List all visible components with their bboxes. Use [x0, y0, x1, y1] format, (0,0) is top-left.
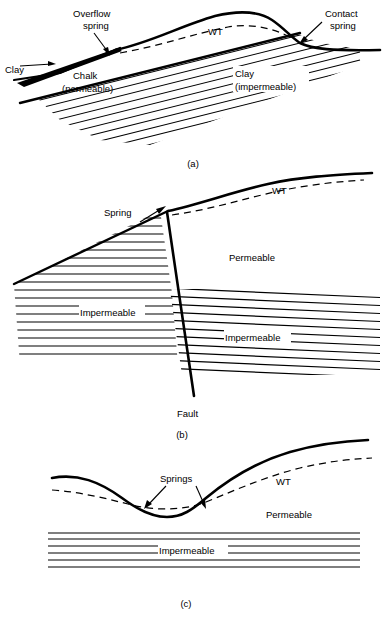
overflow-spring-label-line2: spring — [83, 20, 109, 31]
panel-a-diagram: WT Overflow spring Contact spring Clay C… — [0, 0, 386, 180]
water-table-label-c: WT — [276, 476, 291, 487]
figure-springs-geology: WT Overflow spring Contact spring Clay C… — [0, 0, 386, 621]
spring-label-b: Spring — [104, 207, 131, 218]
contact-spring-leader — [303, 22, 322, 40]
panel-c: Springs WT Permeable Impermeable — [0, 442, 386, 621]
springs-arrowhead-right — [200, 499, 206, 509]
clay-right-label-line1: Clay — [235, 68, 254, 79]
clay-left-arrowhead — [48, 61, 56, 66]
permeable-label-b: Permeable — [229, 252, 275, 263]
impermeable-label-c: Impermeable — [159, 545, 214, 556]
ground-surface-c — [52, 440, 368, 517]
water-table-label-b: WT — [272, 185, 287, 196]
panel-a-caption: (a) — [187, 158, 199, 169]
water-table-label-a: WT — [208, 26, 223, 37]
springs-label: Springs — [160, 473, 192, 484]
panel-b-caption: (b) — [176, 429, 188, 440]
clay-left-leader — [20, 64, 52, 66]
impermeable-left-label: Impermeable — [80, 307, 135, 318]
scarp-surface-left — [14, 211, 168, 284]
panel-b-diagram: Spring WT Permeable Impermeable Impermea… — [0, 180, 386, 442]
panel-b: Spring WT Permeable Impermeable Impermea… — [0, 180, 386, 442]
fault-label: Fault — [177, 408, 198, 419]
chalk-label-line1: Chalk — [73, 70, 98, 81]
contact-spring-label-line2: spring — [330, 20, 356, 31]
ground-surface-left — [14, 48, 120, 80]
fault-line — [167, 212, 194, 396]
overflow-spring-label-line1: Overflow — [73, 8, 111, 19]
panel-c-diagram: Springs WT Permeable Impermeable — [0, 442, 386, 621]
clay-right-label-line2: (impermeable) — [235, 81, 296, 92]
panel-a: WT Overflow spring Contact spring Clay C… — [0, 0, 386, 180]
chalk-label-line2: (permeable) — [62, 83, 113, 94]
panel-c-caption: (c) — [180, 598, 191, 609]
contact-spring-label-line1: Contact — [325, 8, 358, 19]
springs-leader-left — [148, 486, 166, 505]
impermeable-right-label: Impermeable — [225, 332, 280, 343]
permeable-label-c: Permeable — [266, 509, 312, 520]
